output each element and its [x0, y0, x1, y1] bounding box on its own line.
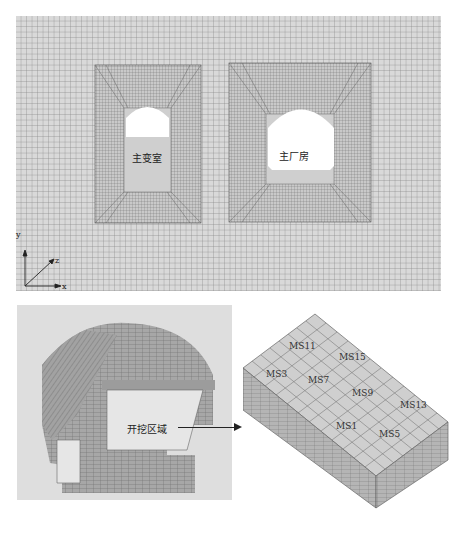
monitoring-block-panel: [243, 310, 458, 510]
axis-label-z: z: [55, 256, 59, 265]
cavern-label-powerhouse: 主厂房: [279, 148, 309, 163]
cavern-label-transformer: 主变室: [132, 150, 162, 165]
cropped-top-text: [0, 0, 463, 8]
finite-element-mesh: [16, 16, 441, 291]
monitoring-point-ms3: MS3: [266, 369, 287, 379]
monitoring-point-ms11: MS11: [289, 341, 316, 351]
monitoring-point-ms15: MS15: [339, 352, 366, 362]
excavation-region-label: 开挖区域: [127, 421, 167, 436]
monitoring-block-model: [243, 310, 458, 510]
excavation-model: [17, 305, 232, 500]
monitoring-point-ms13: MS13: [400, 400, 427, 410]
axis-label-y: y: [16, 230, 21, 239]
axis-label-x: x: [62, 282, 67, 291]
monitoring-point-ms9: MS9: [352, 388, 373, 398]
monitoring-point-ms5: MS5: [379, 429, 400, 439]
top-mesh-panel: [16, 16, 441, 291]
monitoring-point-ms1: MS1: [336, 421, 357, 431]
excavation-model-panel: [17, 305, 232, 500]
monitoring-point-ms7: MS7: [308, 375, 329, 385]
arrow-head-icon: [234, 423, 242, 431]
right-arrow-icon: [178, 427, 236, 428]
